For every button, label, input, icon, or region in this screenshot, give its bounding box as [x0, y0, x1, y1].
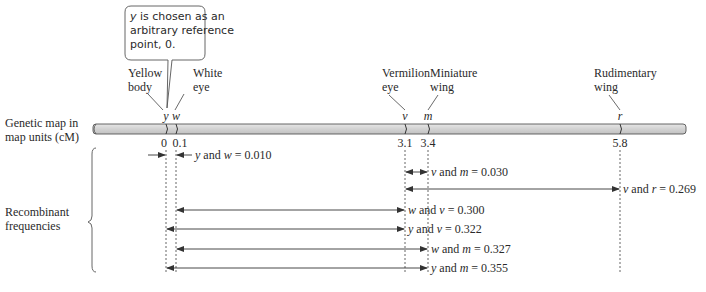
gene-name: wing: [430, 80, 454, 94]
recombinant-label-line-2: frequencies: [5, 219, 61, 233]
gene-y: y0Yellowbody: [128, 66, 169, 272]
leader-line: [389, 95, 405, 110]
frequency-v-m: v and m = 0.030: [406, 165, 508, 179]
gene-name: Yellow: [128, 66, 162, 80]
leader-line: [609, 95, 620, 110]
gene-name: eye: [382, 80, 399, 94]
gene-name: Rudimentary: [594, 66, 657, 80]
position-label: 3.1: [398, 136, 413, 150]
recombinant-label-line-1: Recombinant: [5, 205, 70, 219]
position-label: 3.4: [421, 136, 436, 150]
frequency-label: w and v = 0.300: [408, 203, 484, 217]
gene-name: White: [193, 66, 222, 80]
frequency-label: w and m = 0.327: [431, 242, 511, 256]
frequency-y-m: y and m = 0.355: [167, 261, 508, 275]
callout-line-1: y is chosen as an: [129, 10, 225, 23]
gene-symbol: w: [172, 109, 180, 123]
linkage-map-diagram: y is chosen as an arbitrary reference po…: [0, 0, 706, 292]
frequency-label: y and v = 0.322: [407, 222, 482, 236]
map-label-line-2: map units (cM): [5, 130, 79, 144]
position-label: 5.8: [613, 136, 628, 150]
gene-symbol: y: [162, 109, 169, 123]
callout-line-2: arbitrary reference: [130, 24, 234, 37]
gene-w: w0.1Whiteeye: [172, 66, 222, 272]
gene-name: Vermilion: [382, 66, 430, 80]
gene-v: v3.1Vermilioneye: [382, 66, 430, 272]
gene-symbol: m: [424, 109, 433, 123]
gene-symbol: r: [618, 109, 623, 123]
gene-name: eye: [193, 80, 210, 94]
callout-line-3: point, 0.: [130, 38, 176, 51]
gene-symbol: v: [402, 109, 408, 123]
frequency-label: y and w = 0.010: [194, 148, 271, 162]
brace: [88, 148, 96, 272]
position-label: 0.1: [173, 136, 188, 150]
position-label: 0: [161, 136, 167, 150]
leader-line: [175, 94, 184, 110]
map-label-line-1: Genetic map in: [5, 116, 78, 130]
gene-r: r5.8Rudimentarywing: [594, 66, 657, 272]
frequency-label: v and r = 0.269: [623, 182, 696, 196]
frequency-y-v: y and v = 0.322: [167, 222, 482, 236]
leader-line: [148, 94, 163, 110]
gene-name: body: [128, 80, 152, 94]
frequency-y-w: y and w = 0.010: [148, 148, 271, 162]
frequency-w-m: w and m = 0.327: [177, 242, 511, 256]
frequency-v-r: v and r = 0.269: [406, 182, 696, 196]
frequency-label: y and m = 0.355: [430, 261, 508, 275]
frequency-label: v and m = 0.030: [431, 165, 508, 179]
frequency-w-v: w and v = 0.300: [177, 203, 484, 217]
gene-name: Miniature: [430, 66, 477, 80]
leader-line: [428, 95, 438, 110]
chromosome-bar: [93, 124, 686, 134]
gene-name: wing: [594, 80, 618, 94]
